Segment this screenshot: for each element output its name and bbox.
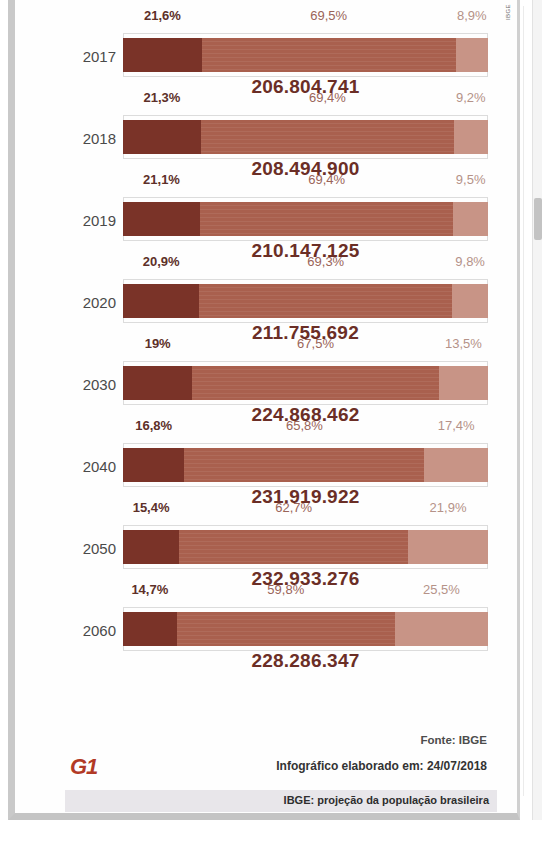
percent-label-young: 21,1% [143,172,180,187]
percent-label-young: 19% [145,336,171,351]
document-page: IBGE 21,6%69,5%8,9%2017206.804.74121,3%6… [8,0,520,820]
percent-label-young: 14,7% [131,582,168,597]
percent-label-row: 15,4%62,7%21,9% [123,500,488,520]
stacked-bar [123,607,488,651]
year-label: 2030 [70,376,116,393]
stacked-bar [123,525,488,569]
percent-label-adult: 69,3% [307,254,344,269]
percent-label-adult: 62,7% [275,500,312,515]
year-label: 2019 [70,212,116,229]
bar-segment-adult [200,202,453,236]
percent-label-adult: 65,8% [286,418,323,433]
bar-segment-young [123,448,184,482]
year-label: 2040 [70,458,116,475]
chart-row: 19%67,5%13,5%2030224.868.462 [15,336,515,418]
percent-label-senior: 9,8% [455,254,485,269]
percent-label-senior: 9,2% [456,90,486,105]
year-label: 2017 [70,48,116,65]
bar-segment-senior [408,530,488,564]
bar-segment-senior [454,120,488,154]
caption-text: IBGE: projeção da população brasileira [284,794,489,806]
page-edge-line [523,6,524,796]
bar-segment-adult [199,284,452,318]
bar-segment-senior [452,284,488,318]
source-label: Fonte: IBGE [421,734,487,746]
percent-label-row: 21,3%69,4%9,2% [123,90,488,110]
chart-row: 21,3%69,4%9,2%2018208.494.900 [15,90,515,172]
bar-segment-young [123,120,201,154]
percent-label-young: 20,9% [143,254,180,269]
bar-segments [123,612,488,646]
bar-segment-adult [184,448,424,482]
percent-label-young: 16,8% [135,418,172,433]
percent-label-adult: 67,5% [297,336,334,351]
scrollbar-thumb[interactable] [534,198,542,240]
bar-segment-adult [201,120,454,154]
bar-segment-adult [177,612,395,646]
percent-label-adult: 69,5% [310,8,347,23]
stacked-bar [123,443,488,487]
bar-segment-young [123,38,202,72]
stacked-bar [123,361,488,405]
vertical-scrollbar[interactable] [532,0,542,820]
bar-segments [123,202,488,236]
percent-label-row: 21,6%69,5%8,9% [123,8,488,28]
population-total: 228.286.347 [123,650,488,672]
bar-segment-senior [395,612,488,646]
bar-segment-senior [424,448,488,482]
percent-label-young: 21,6% [144,8,181,23]
g1-logo: G1 [70,754,97,780]
chart-row: 20,9%69,3%9,8%2020211.755.692 [15,254,515,336]
bar-segment-senior [439,366,488,400]
percent-label-row: 14,7%59,8%25,5% [123,582,488,602]
percent-label-senior: 25,5% [423,582,460,597]
percent-label-adult: 69,4% [309,90,346,105]
percent-label-row: 19%67,5%13,5% [123,336,488,356]
stacked-bar [123,33,488,77]
bar-segments [123,366,488,400]
bar-segment-young [123,612,177,646]
bar-segment-young [123,366,192,400]
bar-segments [123,530,488,564]
bar-segments [123,448,488,482]
chart-row: 14,7%59,8%25,5%2060228.286.347 [15,582,515,664]
year-label: 2020 [70,294,116,311]
percent-label-row: 16,8%65,8%17,4% [123,418,488,438]
stacked-bar [123,279,488,323]
year-label: 2050 [70,540,116,557]
percent-label-young: 15,4% [133,500,170,515]
bar-segment-senior [456,38,488,72]
bar-segment-young [123,284,199,318]
chart-row: 21,6%69,5%8,9%2017206.804.741 [15,8,515,90]
bar-segment-adult [192,366,438,400]
caption-bar: IBGE: projeção da população brasileira [65,790,497,812]
percent-label-adult: 59,8% [267,582,304,597]
percent-label-young: 21,3% [143,90,180,105]
percent-label-adult: 69,4% [308,172,345,187]
chart-row: 15,4%62,7%21,9%2050232.933.276 [15,500,515,582]
bar-segment-senior [453,202,488,236]
percent-label-row: 20,9%69,3%9,8% [123,254,488,274]
percent-label-senior: 9,5% [456,172,486,187]
bar-segment-adult [202,38,456,72]
bar-segments [123,284,488,318]
percent-label-row: 21,1%69,4%9,5% [123,172,488,192]
chart-row: 21,1%69,4%9,5%2019210.147.125 [15,172,515,254]
percent-label-senior: 21,9% [430,500,467,515]
percent-label-senior: 8,9% [457,8,487,23]
bar-segment-young [123,530,179,564]
stacked-bar [123,197,488,241]
elaboration-date-label: Infográfico elaborado em: 24/07/2018 [276,759,487,773]
page-content: IBGE 21,6%69,5%8,9%2017206.804.74121,3%6… [15,0,517,813]
bar-segments [123,38,488,72]
stacked-bar [123,115,488,159]
population-projection-chart: 21,6%69,5%8,9%2017206.804.74121,3%69,4%9… [15,8,515,664]
year-label: 2060 [70,622,116,639]
year-label: 2018 [70,130,116,147]
percent-label-senior: 17,4% [438,418,475,433]
bar-segments [123,120,488,154]
percent-label-senior: 13,5% [445,336,482,351]
bar-segment-young [123,202,200,236]
chart-row: 16,8%65,8%17,4%2040231.919.922 [15,418,515,500]
bar-segment-adult [179,530,408,564]
